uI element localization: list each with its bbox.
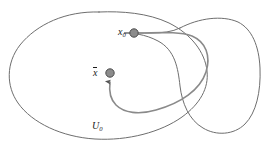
region-u0-label-subscript: 0 <box>99 125 102 132</box>
point-x0-label: x0 <box>118 27 126 38</box>
point-xbar-marker <box>106 69 114 77</box>
connecting-path <box>110 33 208 113</box>
point-xbar-label: x <box>93 67 97 78</box>
diagram-canvas <box>0 0 272 149</box>
point-x0-marker <box>130 29 138 37</box>
region-u0-label: U0 <box>92 121 103 132</box>
point-x0-label-subscript: 0 <box>122 31 125 38</box>
figure-container: x0 x U0 <box>0 0 272 149</box>
point-xbar-label-base: x <box>93 67 97 78</box>
